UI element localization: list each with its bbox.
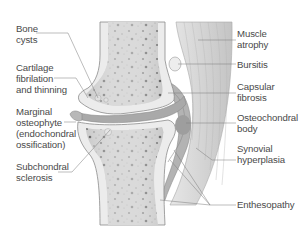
label-enthesopathy: Enthesopathy <box>237 199 294 210</box>
label-cartilage-fibrillation: Cartilage fibrilation and thinning <box>16 62 67 95</box>
label-marginal-osteophyte: Marginal osteophyte (endochondral ossifi… <box>16 106 76 150</box>
femur <box>78 22 174 114</box>
label-synovial-hyperplasia: Synovial hyperplasia <box>237 143 285 165</box>
label-bone-cysts: Bone cysts <box>16 23 38 45</box>
label-muscle-atrophy: Muscle atrophy <box>237 28 268 50</box>
label-bursitis: Bursitis <box>237 59 268 70</box>
tibia <box>78 120 176 225</box>
osteochondral-body <box>175 115 191 135</box>
label-osteochondral-body: Osteochondral body <box>237 112 298 134</box>
label-subchondral-sclerosis: Subchondral sclerosis <box>16 161 69 183</box>
bone-cyst <box>104 98 108 102</box>
label-capsular-fibrosis: Capsular fibrosis <box>237 81 275 103</box>
